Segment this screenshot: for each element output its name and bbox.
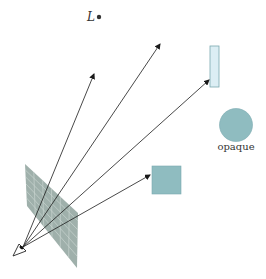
light-point-icon xyxy=(97,15,101,19)
opaque-box xyxy=(152,166,181,194)
light-label: L xyxy=(86,10,95,24)
opaque-label: opaque xyxy=(217,141,254,152)
glass-pane xyxy=(210,46,219,87)
ray-2 xyxy=(23,44,160,247)
opaque-sphere xyxy=(220,109,253,142)
ray-3 xyxy=(23,80,209,247)
image-plane-grid xyxy=(25,164,78,268)
ray-casting-diagram: L opaque xyxy=(0,0,266,279)
light-source: L xyxy=(86,10,101,24)
